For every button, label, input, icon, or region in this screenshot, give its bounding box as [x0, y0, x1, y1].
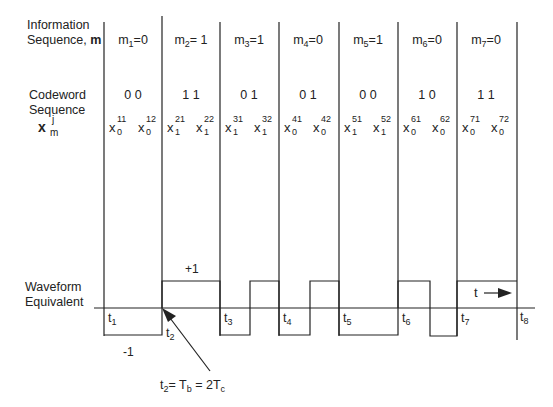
t-label-8: t8 [520, 310, 529, 326]
info-bit-5: m5=1 [339, 33, 397, 49]
code-symbol-7-a: x710 [462, 120, 469, 135]
codeword-7: 1 1 [457, 88, 515, 102]
sym-sup: 12 [146, 114, 156, 124]
x-symbol-label: x j m [38, 119, 46, 135]
info-label-text: Sequence, [27, 33, 90, 47]
t-label-sub: 8 [523, 316, 528, 326]
sym-sub: 1 [233, 127, 238, 137]
plus-one-label: +1 [185, 262, 199, 276]
sym-sub: 1 [175, 127, 180, 137]
code-symbol-2-a: x211 [167, 120, 174, 135]
t-label-sub: 3 [227, 317, 232, 327]
t-label-4: t4 [283, 311, 292, 327]
codeword-5: 0 0 [339, 88, 397, 102]
sym-sub: 0 [321, 127, 326, 137]
x-symbol: x [38, 119, 46, 135]
code-symbol-7-b: x720 [491, 120, 498, 135]
sym-sub: 1 [204, 127, 209, 137]
sym-sup: 31 [233, 114, 243, 124]
info-bit-1: m1=0 [104, 33, 162, 49]
t-label-sub: 1 [111, 317, 116, 327]
info-label-line1: Information [27, 18, 90, 33]
code-symbol-3-a: x311 [225, 120, 232, 135]
code-symbol-6-b: x620 [432, 120, 439, 135]
code-symbol-6-a: x610 [403, 120, 410, 135]
time-arrow-head [498, 288, 512, 298]
sym-sub: 1 [381, 127, 386, 137]
t-label-1: t1 [108, 311, 117, 327]
waveform-label-line2: Equivalent [25, 295, 83, 310]
code-symbol-2-b: x221 [196, 120, 203, 135]
sym-sup: 52 [381, 114, 391, 124]
codeword-label-line1: Codeword [29, 88, 86, 103]
codeword-1: 0 0 [104, 88, 162, 102]
m-value: =1 [250, 33, 264, 47]
sym-sub: 0 [292, 127, 297, 137]
t-label-5: t5 [343, 311, 352, 327]
info-label-line2: Sequence, m [27, 33, 101, 48]
sym-sub: 0 [117, 127, 122, 137]
code-symbol-5-b: x521 [373, 120, 380, 135]
code-symbol-4-a: x410 [284, 120, 291, 135]
sym-sup: 22 [204, 114, 214, 124]
annotation-arrow-shaft [170, 318, 210, 371]
sym-sub: 0 [499, 127, 504, 137]
sym-sup: 32 [262, 114, 272, 124]
t-label-sub: 2 [169, 332, 174, 342]
annotation-eq2: = 2T [192, 378, 221, 392]
code-symbol-1-a: x110 [109, 120, 116, 135]
diagram-lines [0, 0, 553, 407]
sym-sup: 62 [440, 114, 450, 124]
sym-sub: 0 [146, 127, 151, 137]
sym-sub: 1 [262, 127, 267, 137]
sym-sup: 41 [292, 114, 302, 124]
codeword-2: 1 1 [162, 88, 220, 102]
info-bit-2: m2= 1 [162, 33, 220, 49]
annotation-eq2-sub: c [221, 384, 226, 394]
x-symbol-sup: j [52, 114, 54, 125]
m-value: = 1 [190, 33, 208, 47]
x-symbol-sub: m [50, 127, 58, 138]
annotation-arrow-head [162, 308, 176, 322]
info-bit-7: m7=0 [457, 33, 515, 49]
m-value: =0 [487, 33, 501, 47]
m-value: =0 [309, 33, 323, 47]
minus-one-label: -1 [123, 345, 134, 359]
annotation-equation: t2= Tb = 2Tc [160, 378, 225, 394]
code-symbol-4-b: x420 [313, 120, 320, 135]
sym-sup: 71 [470, 114, 480, 124]
t-label-sub: 7 [464, 317, 469, 327]
sym-sub: 1 [352, 127, 357, 137]
t-label-sub: 4 [286, 317, 291, 327]
t-label-6: t6 [402, 311, 411, 327]
sym-sup: 61 [411, 114, 421, 124]
annotation-eq1: = T [169, 378, 187, 392]
t-label-3: t3 [224, 311, 233, 327]
waveform-label-line1: Waveform [25, 280, 82, 295]
sym-sub: 0 [440, 127, 445, 137]
m-value: =1 [369, 33, 383, 47]
codeword-4: 0 1 [279, 88, 337, 102]
info-bit-3: m3=1 [220, 33, 278, 49]
sym-sup: 42 [321, 114, 331, 124]
codeword-label-line2: Sequence [29, 103, 85, 118]
info-bit-4: m4=0 [279, 33, 337, 49]
t-label-7: t7 [461, 311, 470, 327]
time-arrow-label: t [474, 285, 478, 300]
code-symbol-3-b: x321 [254, 120, 261, 135]
t-label-2: t2 [166, 326, 175, 342]
info-bit-6: m6=0 [398, 33, 456, 49]
code-symbol-1-b: x120 [138, 120, 145, 135]
codeword-3: 0 1 [220, 88, 278, 102]
t-label-sub: 5 [346, 317, 351, 327]
code-symbol-5-a: x511 [344, 120, 351, 135]
sym-sup: 72 [499, 114, 509, 124]
info-label-bold: m [90, 33, 101, 47]
sym-sup: 51 [352, 114, 362, 124]
t-label-sub: 6 [405, 317, 410, 327]
sym-sub: 0 [411, 127, 416, 137]
sym-sub: 0 [470, 127, 475, 137]
m-value: =0 [134, 33, 148, 47]
sym-sup: 11 [117, 114, 126, 124]
codeword-6: 1 0 [398, 88, 456, 102]
